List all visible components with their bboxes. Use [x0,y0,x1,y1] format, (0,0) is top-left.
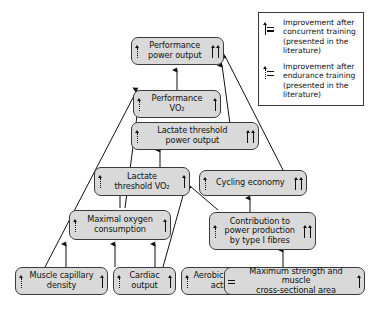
node-lactate-threshold-vo2[interactable]: Lactate threshold VO₂ [94,167,190,196]
legend-entry-endurance: Improvement after endurance training (pr… [263,62,359,99]
legend-text-endurance: Improvement after endurance training (pr… [283,62,359,99]
node-maximal-oxygen-consumption[interactable]: Maximal oxygen consumption [69,210,171,240]
marks-left-aerobic-enzyme-activity [185,268,189,294]
concurrent-arrow-icon [211,45,215,58]
endurance-arrow-icon [98,175,102,188]
marks-left-contribution-type-i-fibres [213,213,217,249]
legend-symbol-endurance [263,62,283,79]
concurrent-arrow-icon [308,225,312,238]
node-maximum-strength-csa[interactable]: Maximum strength and muscle cross-sectio… [224,267,365,295]
equals-sign-icon [267,22,274,35]
concurrent-arrow-icon [251,130,255,143]
marks-left-performance-vo2 [137,91,141,117]
node-label-muscle-capillary-density: Muscle capillary density [24,271,99,290]
concurrent-arrow-icon [182,175,186,188]
marks-right-contribution-type-i-fibres [303,213,313,249]
marks-left-performance-power-output [135,38,139,64]
endurance-arrow-icon [185,275,189,288]
endurance-arrow-icon [203,177,207,190]
node-performance-power-output[interactable]: Performance power output [131,37,224,65]
endurance-arrow-icon [213,225,217,238]
node-cycling-economy[interactable]: Cycling economy [199,170,307,196]
node-cardiac-output[interactable]: Cardiac output [113,267,176,295]
node-label-contribution-type-i-fibres: Contribution to power production by type… [218,217,302,246]
legend-box: Improvement after concurrent training (p… [258,12,364,106]
marks-right-performance-power-output [211,38,221,64]
concurrent-arrow-icon [163,219,167,232]
node-muscle-capillary-density[interactable]: Muscle capillary density [15,267,108,295]
marks-right-cardiac-output [168,268,172,294]
marks-left-maximum-strength-csa [228,268,235,294]
marks-right-lactate-threshold-vo2 [182,168,186,195]
node-label-performance-vo2: Performance VO₂ [142,94,212,113]
concurrent-arrow-icon [303,225,307,238]
node-label-cycling-economy: Cycling economy [208,178,293,188]
legend-symbol-concurrent [263,18,283,35]
concurrent-arrow-icon [299,177,303,190]
marks-left-cycling-economy [203,171,207,195]
node-label-performance-power-output: Performance power output [140,41,210,60]
endurance-arrow-icon [19,275,23,288]
endurance-arrow-icon [137,98,141,111]
legend-text-concurrent: Improvement after concurrent training (p… [283,18,359,55]
endurance-arrow-icon [135,130,139,143]
concurrent-arrow-icon [294,177,298,190]
marks-right-lactate-threshold-power-output [246,123,256,149]
node-label-cardiac-output: Cardiac output [122,271,167,290]
marks-left-muscle-capillary-density [19,268,23,294]
marks-right-maximal-oxygen-consumption [163,211,167,239]
marks-right-performance-vo2 [213,91,217,117]
legend-entry-concurrent: Improvement after concurrent training (p… [263,18,359,55]
diagram-canvas: Performance power output Performance VO₂… [0,0,371,309]
concurrent-arrow-icon [357,275,361,288]
concurrent-arrow-icon [246,130,250,143]
concurrent-arrow-icon [168,275,172,288]
marks-left-cardiac-output [117,268,121,294]
marks-left-lactate-threshold-vo2 [98,168,102,195]
equals-sign-icon [267,66,274,79]
node-performance-vo2[interactable]: Performance VO₂ [133,90,221,118]
concurrent-arrow-icon [100,275,104,288]
marks-right-cycling-economy [294,171,304,195]
node-label-maximum-strength-csa: Maximum strength and muscle cross-sectio… [236,267,356,296]
concurrent-arrow-icon [213,98,217,111]
endurance-arrow-icon [117,275,121,288]
node-lactate-threshold-power-output[interactable]: Lactate threshold power output [131,122,259,150]
endurance-arrow-icon [73,219,77,232]
endurance-arrow-icon [135,45,139,58]
marks-left-lactate-threshold-power-output [135,123,139,149]
no-change-equals-icon [228,275,235,288]
node-contribution-type-i-fibres[interactable]: Contribution to power production by type… [209,212,316,250]
marks-right-muscle-capillary-density [100,268,104,294]
marks-right-maximum-strength-csa [357,268,361,294]
node-label-lactate-threshold-power-output: Lactate threshold power output [140,126,245,145]
marks-left-maximal-oxygen-consumption [73,211,77,239]
node-label-maximal-oxygen-consumption: Maximal oxygen consumption [78,215,162,234]
concurrent-arrow-icon [216,45,220,58]
node-label-lactate-threshold-vo2: Lactate threshold VO₂ [103,172,181,191]
